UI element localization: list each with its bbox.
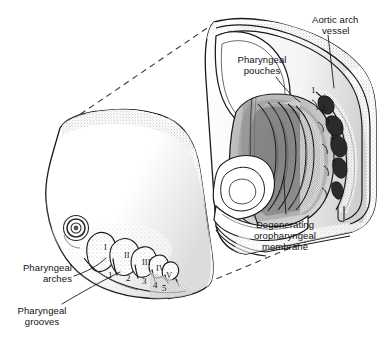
label-pharyngeal-grooves-line1: Pharyngeal — [6, 305, 78, 316]
arch-numeral-II: II — [124, 251, 130, 260]
label-aortic-arch-vessel: Aortic arch vessel — [312, 14, 359, 36]
groove-number-2: 2 — [126, 274, 131, 283]
pouch-number-4: 4 — [330, 133, 335, 142]
label-pharyngeal-arches-line1: Pharyngeal — [4, 262, 72, 273]
pouch-number-2: 2 — [321, 104, 326, 113]
label-aortic-arch-vessel-line2: vessel — [312, 25, 359, 36]
label-degenerating-line3: membrane — [235, 241, 335, 252]
arch-numeral-III: III — [142, 258, 151, 267]
groove-number-1: 1 — [108, 271, 113, 280]
arch-numeral-I: I — [104, 243, 107, 252]
label-degenerating-line2: oropharyngeal — [235, 230, 335, 241]
pharyngeal-arches-figure: Aortic arch vessel Pharyngeal pouches De… — [0, 0, 388, 356]
pouch-number-5: 5 — [332, 159, 337, 168]
label-pharyngeal-arches-line2: arches — [4, 273, 72, 284]
pouch-number-3: 3 — [325, 118, 330, 127]
arch-numeral-V: V — [166, 271, 172, 280]
label-pharyngeal-pouches-line2: pouches — [226, 65, 298, 76]
anatomical-illustration — [0, 0, 388, 356]
label-pharyngeal-pouches-line1: Pharyngeal — [226, 54, 298, 65]
arch-numeral-IV: IV — [156, 264, 165, 273]
groove-number-4: 4 — [153, 281, 158, 290]
groove-number-5: 5 — [162, 284, 167, 293]
label-pharyngeal-grooves: Pharyngeal grooves — [6, 305, 78, 327]
label-pharyngeal-grooves-line2: grooves — [6, 316, 78, 327]
label-aortic-arch-vessel-line1: Aortic arch — [312, 14, 359, 25]
label-degenerating-line1: Degenerating — [235, 219, 335, 230]
label-pharyngeal-arches: Pharyngeal arches — [4, 262, 72, 284]
pouch-number-1: 1 — [311, 86, 316, 95]
groove-number-3: 3 — [142, 277, 147, 286]
label-degenerating-oropharyngeal-membrane: Degenerating oropharyngeal membrane — [235, 219, 335, 252]
label-pharyngeal-pouches: Pharyngeal pouches — [226, 54, 298, 76]
